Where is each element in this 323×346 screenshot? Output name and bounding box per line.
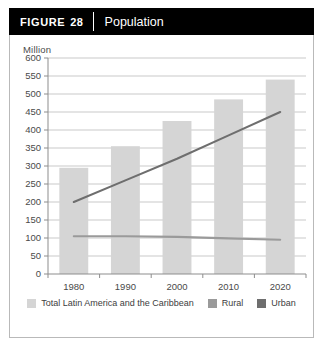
- legend-item-total: Total Latin America and the Caribbean: [27, 298, 194, 308]
- figure-title: Population: [94, 15, 164, 29]
- x-tick-label: 2000: [166, 281, 187, 292]
- population-chart: 050100150200250300350400450500550600 198…: [10, 36, 313, 298]
- legend-label-urban: Urban: [271, 298, 296, 308]
- y-tick-label: 450: [25, 106, 41, 117]
- y-axis-ticks: 050100150200250300350400450500550600: [25, 52, 48, 279]
- legend-label-rural: Rural: [222, 298, 244, 308]
- y-tick-label: 50: [30, 250, 41, 261]
- x-tick-label: 1980: [63, 281, 84, 292]
- y-tick-label: 100: [25, 232, 41, 243]
- x-tick-label: 1990: [115, 281, 136, 292]
- figure-number: 28: [70, 16, 83, 28]
- chart-area: Million 05010015020025030035040045050055…: [10, 36, 313, 337]
- y-tick-label: 550: [25, 70, 41, 81]
- y-tick-label: 250: [25, 178, 41, 189]
- figure-card: FIGURE 28 Population Million 05010015020…: [0, 0, 323, 346]
- y-tick-label: 600: [25, 52, 41, 63]
- legend-swatch-total-icon: [27, 299, 36, 308]
- y-tick-label: 400: [25, 124, 41, 135]
- y-tick-label: 300: [25, 160, 41, 171]
- legend-swatch-rural-icon: [208, 299, 217, 308]
- legend-item-urban: Urban: [257, 298, 296, 308]
- x-tick-label: 2010: [218, 281, 239, 292]
- bar: [59, 168, 88, 274]
- bar: [214, 99, 243, 274]
- bar: [111, 146, 140, 274]
- chart-legend: Total Latin America and the Caribbean Ru…: [10, 298, 313, 308]
- bars-group: [59, 80, 294, 274]
- y-tick-label: 500: [25, 88, 41, 99]
- legend-item-rural: Rural: [208, 298, 244, 308]
- legend-swatch-urban-icon: [257, 299, 266, 308]
- x-tick-label: 2020: [270, 281, 291, 292]
- bar: [163, 121, 192, 274]
- y-tick-label: 350: [25, 142, 41, 153]
- y-tick-label: 0: [36, 268, 41, 279]
- legend-label-total: Total Latin America and the Caribbean: [41, 298, 194, 308]
- y-tick-label: 150: [25, 214, 41, 225]
- bar: [266, 80, 295, 274]
- y-tick-label: 200: [25, 196, 41, 207]
- figure-tag-word: FIGURE: [20, 16, 65, 28]
- figure-tag: FIGURE 28: [9, 16, 93, 28]
- figure-header: FIGURE 28 Population: [9, 8, 314, 35]
